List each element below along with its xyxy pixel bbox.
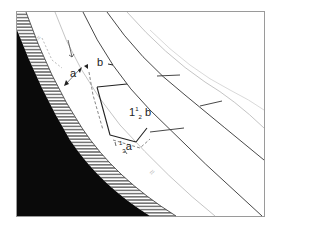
- step-line-3: [150, 128, 184, 132]
- label-one-half-b-var: b: [145, 106, 151, 118]
- label-a-text: a: [70, 67, 76, 79]
- arc-5-faint: [150, 30, 264, 110]
- label-one-third-a: 13a: [119, 140, 132, 154]
- arrow-b-left-icon: [84, 64, 88, 69]
- arrow-a-lower-icon: [64, 80, 69, 86]
- label-one-half-b: 112 b: [129, 106, 151, 120]
- label-b-text: b: [97, 56, 103, 68]
- label-one-third-a-var: a: [126, 140, 132, 152]
- step-line-2: [200, 101, 222, 106]
- label-a: a: [70, 68, 76, 79]
- label-b: b: [97, 57, 103, 68]
- arc-3: [107, 12, 264, 160]
- step-line-1: [157, 75, 180, 76]
